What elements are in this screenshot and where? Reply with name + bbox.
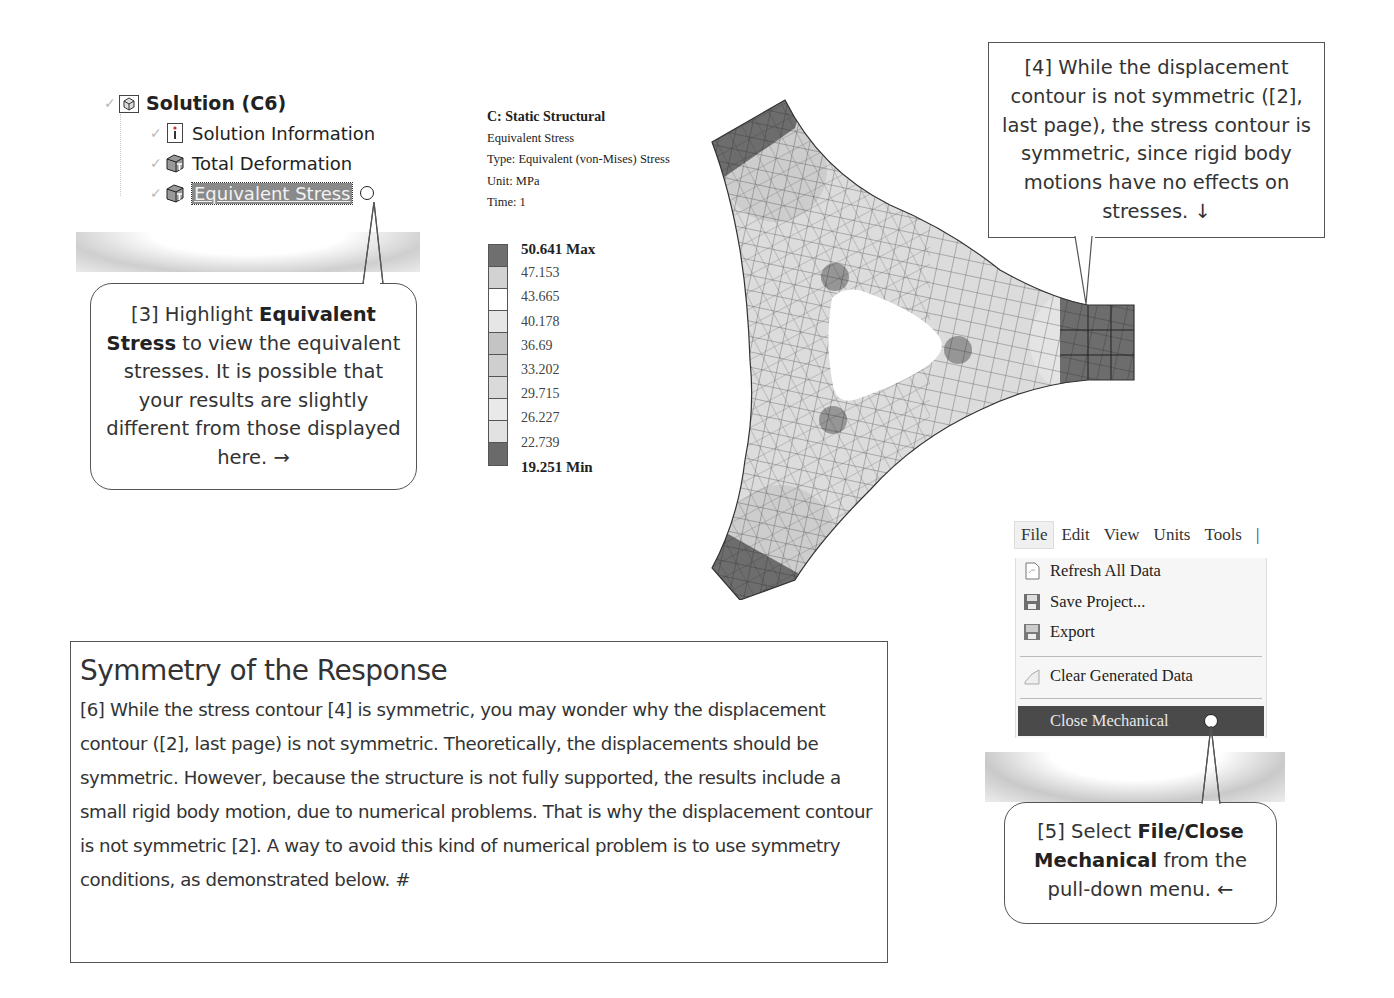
legend-value: 33.202 (521, 358, 595, 382)
menu-item-clear-generated-data[interactable]: Clear Generated Data (1016, 666, 1266, 686)
tree-item-label: Solution Information (192, 123, 375, 144)
result-name: Equivalent Stress (487, 128, 670, 150)
legend-band (489, 289, 507, 311)
callout-text: [4] While the displacement contour is no… (1002, 56, 1311, 223)
callout-anchor-icon (360, 186, 374, 200)
result-time: Time: 1 (487, 192, 670, 214)
callout-pointer (1070, 236, 1110, 308)
refresh-icon (1022, 561, 1042, 581)
legend-value: 26.227 (521, 406, 595, 430)
legend-value: 29.715 (521, 382, 595, 406)
legend-band (489, 421, 507, 443)
callout-text: [3] Highlight (131, 303, 259, 326)
save-icon (1022, 592, 1042, 612)
legend-value: 47.153 (521, 261, 595, 285)
legend-value: 40.178 (521, 310, 595, 334)
menu-item-save-project[interactable]: Save Project... (1016, 592, 1266, 612)
tree-item-total-deformation[interactable]: ✓ Total Deformation (150, 152, 352, 174)
file-dropdown: Refresh All Data Save Project... Export … (1015, 558, 1267, 738)
legend-band (489, 245, 507, 267)
result-type: Type: Equivalent (von-Mises) Stress (487, 149, 670, 171)
tree-connector-lines (120, 114, 151, 196)
tree-item-label: Solution (C6) (146, 92, 286, 114)
menu-view[interactable]: View (1097, 525, 1147, 545)
menu-tools[interactable]: Tools (1197, 525, 1249, 545)
check-icon: ✓ (150, 155, 162, 171)
callout-step-3: [3] Highlight Equivalent Stress to view … (90, 283, 417, 490)
menu-item-label: Save Project... (1050, 592, 1145, 612)
menu-separator (1020, 698, 1262, 699)
solution-icon (118, 92, 140, 114)
panel-shadow (985, 752, 1285, 802)
legend-color-bar (488, 244, 508, 466)
section-title: Symmetry of the Response (80, 654, 878, 687)
file-menu-panel: File Edit View Units Tools | Refresh All… (1010, 518, 1268, 744)
legend-value: 22.739 (521, 431, 595, 455)
menu-item-export[interactable]: Export (1016, 622, 1266, 642)
menu-separator (1020, 656, 1262, 657)
legend-max: 50.641 Max (521, 237, 595, 261)
check-icon: ✓ (150, 185, 162, 201)
menu-more: | (1249, 525, 1266, 545)
result-icon (164, 182, 186, 204)
legend-band (489, 333, 507, 355)
tree-item-equivalent-stress[interactable]: ✓ Equivalent Stress (150, 182, 374, 204)
legend-band (489, 311, 507, 333)
section-symmetry-of-response: Symmetry of the Response [6] While the s… (70, 641, 888, 963)
legend-value: 43.665 (521, 285, 595, 309)
callout-step-4: [4] While the displacement contour is no… (988, 42, 1325, 238)
clear-icon (1022, 666, 1042, 686)
tree-item-solution-information[interactable]: ✓ Solution Information (150, 122, 375, 144)
callout-step-5: [5] Select File/Close Mechanical from th… (1004, 802, 1277, 924)
info-icon (164, 122, 186, 144)
callout-pointer-overlay (355, 200, 395, 290)
legend-band (489, 355, 507, 377)
menu-file[interactable]: File (1014, 521, 1054, 549)
menu-item-label: Clear Generated Data (1050, 666, 1193, 686)
menu-item-refresh-all-data[interactable]: Refresh All Data (1016, 561, 1266, 581)
menu-item-label: Refresh All Data (1050, 561, 1161, 581)
tree-item-solution[interactable]: ✓ Solution (C6) (104, 92, 286, 114)
tree-item-label-selected: Equivalent Stress (192, 183, 352, 204)
menu-edit[interactable]: Edit (1054, 525, 1096, 545)
menu-units[interactable]: Units (1147, 525, 1198, 545)
tree-item-label: Total Deformation (192, 153, 352, 174)
callout-pointer-overlay (1200, 724, 1240, 808)
result-header: C: Static Structural Equivalent Stress T… (487, 106, 670, 214)
menu-item-label: Close Mechanical (1050, 711, 1169, 730)
legend-band (489, 377, 507, 399)
check-icon: ✓ (150, 125, 162, 141)
result-icon (164, 152, 186, 174)
callout-text: [5] Select (1037, 820, 1137, 843)
legend-labels: 50.641 Max 47.153 43.665 40.178 36.69 33… (521, 237, 595, 479)
section-body: [6] While the stress contour [4] is symm… (80, 693, 878, 897)
export-icon (1022, 622, 1042, 642)
legend-band (489, 267, 507, 289)
legend-band (489, 399, 507, 421)
result-unit: Unit: MPa (487, 171, 670, 193)
legend-band (489, 443, 507, 465)
result-title: C: Static Structural (487, 106, 670, 128)
legend-value: 36.69 (521, 334, 595, 358)
legend-min: 19.251 Min (521, 455, 595, 479)
menu-item-label: Export (1050, 622, 1095, 642)
menu-bar: File Edit View Units Tools | (1010, 518, 1268, 552)
check-icon: ✓ (104, 95, 116, 111)
